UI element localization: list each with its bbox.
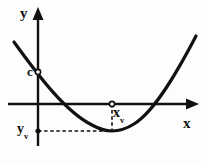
vertex-y-label: yv bbox=[17, 122, 28, 138]
graph-canvas bbox=[0, 0, 206, 163]
vertex-y-label-subscript: v bbox=[24, 131, 28, 141]
y-intercept-label: c bbox=[27, 65, 33, 78]
y-axis-arrow-icon bbox=[33, 7, 44, 20]
parabola-figure: y x c xv yv bbox=[0, 0, 206, 163]
vertex-x-label-subscript: v bbox=[120, 115, 124, 125]
vertex-x-label: xv bbox=[113, 106, 124, 122]
x-axis-label: x bbox=[183, 116, 191, 131]
x-axis-arrow-icon bbox=[186, 99, 199, 110]
y-intercept-marker-icon bbox=[35, 69, 40, 74]
vertex-y-marker-icon bbox=[36, 129, 40, 133]
parabola-curve bbox=[14, 36, 196, 131]
vertex-x-label-base: x bbox=[113, 105, 120, 120]
vertex-y-label-base: y bbox=[17, 121, 24, 136]
y-axis-label: y bbox=[20, 6, 28, 21]
